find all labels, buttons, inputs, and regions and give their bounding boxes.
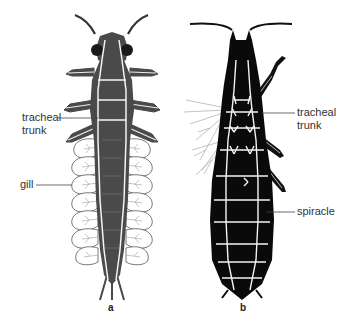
panel-letter-b: b <box>240 302 246 313</box>
gills-left <box>72 139 98 265</box>
panel-b-insect <box>184 24 295 300</box>
gills-right <box>126 139 152 265</box>
label-tracheal-trunk-a: tracheal trunk <box>22 111 61 137</box>
panel-a-larva <box>36 15 160 300</box>
eye-right <box>121 44 133 56</box>
insect-respiration-diagram <box>0 0 348 330</box>
insect-b-head <box>222 30 262 100</box>
label-gill: gill <box>20 178 33 191</box>
panel-letter-a: a <box>108 302 114 313</box>
eye-left <box>91 44 103 56</box>
label-spiracle: spiracle <box>297 205 335 218</box>
label-tracheal-trunk-b: tracheal trunk <box>297 106 336 132</box>
